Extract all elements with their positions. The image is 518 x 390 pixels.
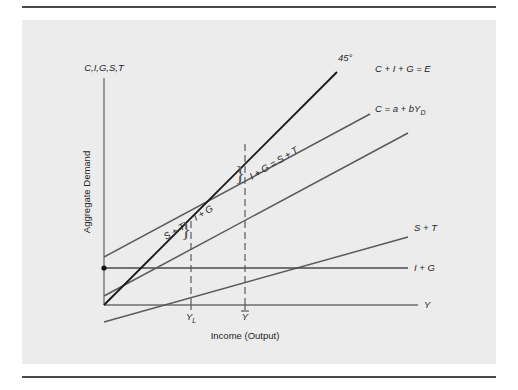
consumption-function-line [104, 133, 408, 296]
saving-plus-tax-line [104, 237, 408, 322]
x-axis-title: Income (Output) [211, 330, 280, 341]
economics-diagram-svg: } } S + T I + G I + G = S + T 45° C + I … [0, 0, 518, 390]
brace-right: } [235, 160, 246, 185]
tick-label-yl-subscript: L [192, 317, 196, 324]
tick-label-ybar-group: Y [241, 311, 249, 322]
label-y-axis-variables: C,I,G,S,T [84, 62, 125, 73]
figure-container: } } S + T I + G I + G = S + T 45° C + I … [0, 0, 518, 390]
y-axis-title: Aggregate Demand [81, 151, 92, 233]
intercept-dot [101, 265, 106, 270]
label-forty-five-degree: 45° [338, 52, 353, 63]
label-aggregate-expenditure: C + I + G = E [375, 63, 431, 74]
label-x-axis-variable: Y [424, 299, 431, 310]
forty-five-degree-line [104, 72, 337, 305]
annotation-investment-plus-government-gap: I + G [191, 203, 215, 223]
label-saving-plus-tax: S + T [414, 222, 438, 233]
label-investment-plus-government: I + G [414, 262, 435, 273]
annotation-equilibrium-condition: I + G = S + T [247, 144, 301, 182]
label-forty-five-degree-text: 45 [338, 52, 349, 63]
label-consumption-function: C = a + bYD [375, 103, 425, 116]
label-consumption-function-subscript: D [420, 109, 425, 116]
aggregate-expenditure-line [104, 114, 370, 257]
label-consumption-function-base: C = a + bY [375, 103, 421, 114]
degree-symbol-icon: ° [349, 52, 353, 63]
tick-label-yl: YL [186, 311, 196, 324]
tick-label-ybar: Y [242, 311, 249, 322]
